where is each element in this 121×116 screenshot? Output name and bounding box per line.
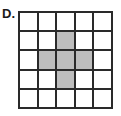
grid-cell xyxy=(38,70,57,89)
shaded-cell xyxy=(56,70,75,89)
grid-cell xyxy=(93,89,112,108)
grid-cell xyxy=(93,70,112,89)
grid-cell xyxy=(19,31,38,50)
grid-cell xyxy=(19,50,38,69)
option-label: D. xyxy=(2,7,15,20)
grid-cell xyxy=(75,12,94,31)
grid-cell xyxy=(38,89,57,108)
shaded-cell xyxy=(75,50,94,69)
shaded-cell xyxy=(56,31,75,50)
shaded-cell xyxy=(38,50,57,69)
grid-cell xyxy=(19,12,38,31)
grid-cell xyxy=(56,12,75,31)
grid-cell xyxy=(56,89,75,108)
grid-cell xyxy=(93,31,112,50)
grid-cell xyxy=(93,12,112,31)
grid-cell xyxy=(75,89,94,108)
grid-diagram xyxy=(18,11,113,109)
grid-cell xyxy=(75,70,94,89)
grid-cell xyxy=(75,31,94,50)
grid-cell xyxy=(93,50,112,69)
grid-cell xyxy=(19,89,38,108)
shaded-cell xyxy=(56,50,75,69)
grid-cell xyxy=(38,31,57,50)
grid-cell xyxy=(38,12,57,31)
grid-cell xyxy=(19,70,38,89)
